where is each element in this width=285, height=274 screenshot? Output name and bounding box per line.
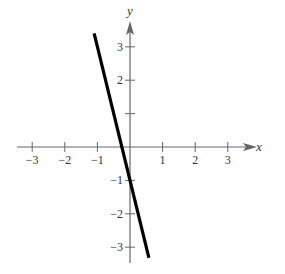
- y-tick-label: 2: [117, 73, 123, 87]
- x-axis-label: x: [255, 139, 262, 154]
- x-tick-label: −2: [58, 153, 71, 167]
- x-tick-label: 3: [225, 153, 231, 167]
- x-tick-label: 2: [192, 153, 198, 167]
- x-tick-label: −1: [91, 153, 104, 167]
- y-tick-label: −3: [110, 240, 123, 254]
- x-tick-label: 1: [160, 153, 166, 167]
- y-tick-label: −1: [110, 173, 123, 187]
- y-tick-label: −2: [110, 207, 123, 221]
- y-axis-label: y: [125, 3, 133, 18]
- coordinate-plane: xy−3−2−1123−3−2−123: [0, 0, 285, 274]
- plotted-line: [94, 33, 149, 257]
- x-tick-label: −3: [26, 153, 39, 167]
- line-series: [94, 33, 149, 257]
- y-tick-label: 3: [117, 40, 123, 54]
